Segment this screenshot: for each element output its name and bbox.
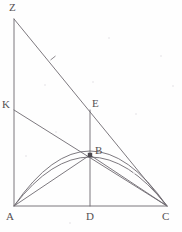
tick-marks-group	[51, 56, 56, 60]
segment-BC	[90, 155, 167, 206]
geometry-figure: ZKEBADC	[0, 0, 182, 232]
vertex-point-B	[88, 153, 92, 157]
vertex-label-A: A	[6, 211, 14, 222]
scan-speck	[25, 155, 27, 157]
curves-group	[14, 151, 167, 206]
vertex-label-E: E	[92, 98, 99, 109]
scan-speck	[135, 113, 137, 115]
tick-on-ZC	[51, 56, 56, 60]
vertex-label-Z: Z	[9, 2, 16, 13]
vertex-label-C: C	[162, 211, 169, 222]
scan-speck	[55, 131, 57, 133]
scan-speck	[172, 85, 174, 87]
scan-speck	[160, 55, 162, 57]
vertex-points-group	[88, 153, 92, 157]
segment-AB	[14, 155, 90, 206]
scan-speck	[69, 222, 71, 224]
segment-KC	[14, 110, 167, 206]
vertex-label-B: B	[95, 145, 102, 156]
vertex-label-K: K	[2, 99, 10, 110]
scan-speck	[133, 172, 135, 174]
arc-ABC-upper	[14, 151, 167, 206]
figure-canvas	[0, 0, 182, 232]
scan-speck	[92, 81, 94, 83]
scan-speck	[108, 37, 110, 39]
vertex-label-D: D	[86, 211, 94, 222]
arc-ABC-lower	[14, 157, 167, 206]
scan-speck	[44, 84, 46, 86]
